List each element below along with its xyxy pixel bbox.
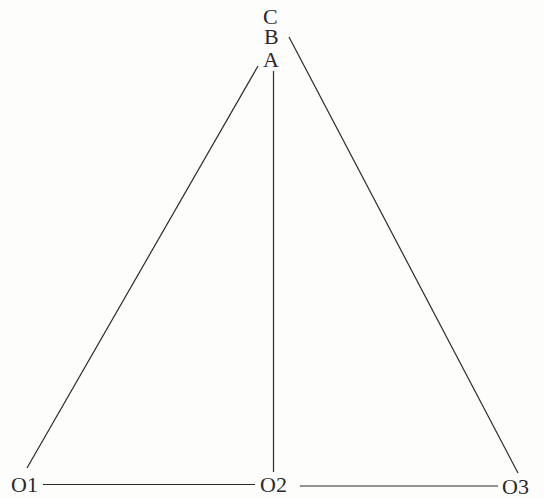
label-b: B — [264, 26, 279, 48]
diagram-canvas: C B A O1 O2 O3 — [0, 0, 544, 498]
label-o3: O3 — [502, 476, 529, 498]
segment-o3-c — [289, 37, 518, 473]
label-o2: O2 — [260, 474, 287, 496]
label-a: A — [263, 49, 279, 71]
label-o1: O1 — [11, 474, 38, 496]
segment-o1-b — [27, 66, 258, 468]
diagram-lines — [0, 0, 544, 498]
